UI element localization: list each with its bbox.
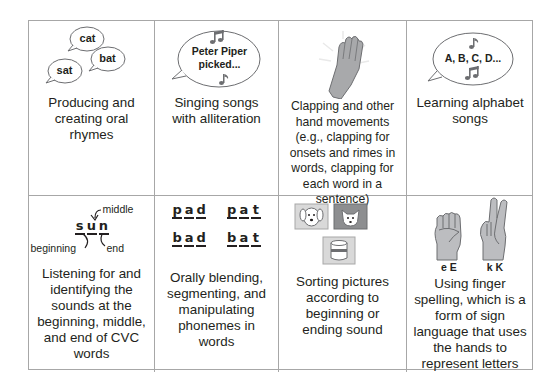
dog-picture-card [295, 204, 328, 229]
cell-alphabet-songs: A, B, C, D... Learning alphabet songs [407, 21, 533, 196]
song-bubble-illustration: Peter Piper picked... [162, 21, 272, 95]
phoneme-word: bad [171, 230, 207, 247]
sign-hand-k-icon [480, 198, 507, 260]
phoneme-word: bat [226, 230, 262, 247]
sign-label-e: e E [437, 261, 461, 273]
label-beginning: beginning [31, 242, 77, 254]
cell-caption: Singing songs with alliteration [155, 95, 278, 127]
cell-oral-rhymes: cat bat sat Producing and creating oral … [29, 21, 155, 196]
cell-caption: Using finger spelling, which is a form o… [407, 276, 533, 372]
cell-picture-sorting: Sorting pictures according to beginning … [279, 196, 407, 372]
cell-phoneme-manipulation: pad pat bad bat Orally blending, segment… [155, 196, 279, 372]
cell-caption: Sorting pictures according to beginning … [279, 274, 406, 338]
cvc-diagram-illustration: middle sun beginning end [31, 196, 153, 262]
cell-caption: Clapping and other hand movements (e.g.,… [279, 99, 406, 208]
rhyme-word-sat: sat [53, 64, 77, 76]
alphabet-bubble-illustration: A, B, C, D... [415, 21, 525, 95]
clapping-hand-icon [293, 25, 393, 99]
rhyme-word-bat: bat [96, 52, 120, 64]
cvc-word: sun [74, 218, 110, 235]
label-middle: middle [103, 203, 134, 215]
sign-hand-e-icon [435, 213, 461, 261]
letter-beginning: s [75, 219, 85, 235]
phoneme-word: pat [226, 202, 262, 219]
cell-caption: Learning alphabet songs [407, 95, 533, 127]
alphabet-text: A, B, C, D... [433, 52, 513, 64]
cell-alliteration-songs: Peter Piper picked... Singing songs with… [155, 21, 279, 196]
cell-caption: Listening for and identifying the sounds… [29, 266, 154, 362]
song-text-line2: picked... [178, 58, 262, 70]
cell-caption: Producing and creating oral rhymes [29, 95, 154, 143]
phonological-activities-grid: cat bat sat Producing and creating oral … [28, 20, 533, 370]
sign-label-k: k K [483, 261, 507, 273]
rhyme-word-cat: cat [76, 32, 100, 44]
phoneme-word: pad [171, 202, 207, 219]
cell-clapping: Clapping and other hand movements (e.g.,… [279, 21, 407, 196]
cell-finger-spelling: e E k K Using finger spelling, which is … [407, 196, 533, 372]
cat-picture-card [334, 204, 367, 229]
phoneme-word-grid: pad pat bad bat [155, 202, 278, 262]
letter-end: n [99, 219, 109, 235]
can-picture-card [323, 237, 355, 264]
picture-cards-illustration [279, 196, 407, 274]
label-end: end [107, 242, 125, 254]
clapping-hand-illustration [293, 25, 393, 99]
cell-caption: Orally blending, segmenting, and manipul… [155, 270, 278, 350]
rhyme-bubbles-illustration: cat bat sat [32, 21, 152, 93]
song-text-line1: Peter Piper [178, 45, 262, 57]
letter-middle: u [87, 219, 97, 235]
sign-hands-illustration: e E k K [407, 196, 533, 274]
cell-cvc-sounds: middle sun beginning end Listening for a… [29, 196, 155, 372]
